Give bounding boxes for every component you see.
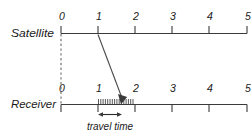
travel-time-arrowhead-right <box>117 112 122 116</box>
travel-time-hatching <box>99 99 134 104</box>
satellite-tick-label-2: 2 <box>132 10 139 22</box>
satellite-axis-group: 0 1 2 3 4 5 Satellite <box>11 10 251 39</box>
satellite-tick-label-3: 3 <box>170 10 176 22</box>
receiver-tick-label-1: 1 <box>96 82 102 94</box>
signal-propagation-arrow <box>98 35 127 105</box>
travel-time-measure: travel time <box>87 112 134 132</box>
travel-time-label: travel time <box>87 121 134 132</box>
satellite-axis-label: Satellite <box>11 27 54 39</box>
travel-time-diagram: 0 1 2 3 4 5 Satellite 0 1 2 3 4 5 <box>0 0 251 137</box>
satellite-tick-label-5: 5 <box>245 10 251 22</box>
receiver-tick-label-5: 5 <box>245 82 251 94</box>
receiver-tick-label-3: 3 <box>170 82 176 94</box>
receiver-tick-label-4: 4 <box>207 82 213 94</box>
satellite-tick-label-4: 4 <box>207 10 213 22</box>
receiver-axis-label: Receiver <box>11 98 57 110</box>
receiver-tick-label-2: 2 <box>132 82 139 94</box>
receiver-tick-label-0: 0 <box>59 82 65 94</box>
satellite-tick-label-1: 1 <box>96 10 102 22</box>
diagram-canvas: 0 1 2 3 4 5 Satellite 0 1 2 3 4 5 <box>0 0 251 137</box>
travel-time-arrowhead-left <box>98 112 103 116</box>
receiver-axis-group: 0 1 2 3 4 5 Receiver <box>11 82 251 112</box>
satellite-tick-label-0: 0 <box>59 10 65 22</box>
